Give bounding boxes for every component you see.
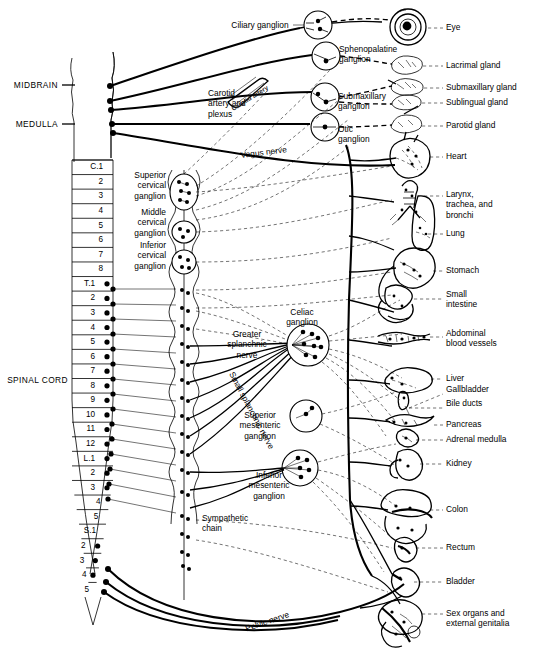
larynx-trachea-bronchi-drawing: [390, 181, 426, 225]
segment-dot: [104, 441, 109, 446]
segment-dot: [104, 354, 109, 359]
submaxillary-ganglion-circle: [311, 83, 339, 111]
label-superior-mesenteric-ganglion: Superior mesenteric ganglion: [227, 410, 293, 441]
sex-organs-drawing: [378, 600, 422, 647]
pancreas-drawing: [386, 415, 434, 427]
segment-dot: [104, 427, 109, 432]
cord-segment-2: 2: [68, 468, 95, 477]
label-medulla: MEDULLA: [0, 119, 58, 129]
organ-label-bile-ducts: Bile ducts: [446, 398, 536, 408]
segment-dot: [104, 369, 109, 374]
organ-label-gallbladder: Gallbladder: [446, 384, 536, 394]
organ-label-liver: Liver: [446, 373, 536, 383]
organ-label-rectum: Rectum: [446, 542, 536, 552]
cord-segment-4: 4: [68, 206, 103, 215]
cord-segment-S1: S.1: [75, 526, 96, 535]
cord-segment-6: 6: [68, 352, 95, 361]
kidney-drawing: [388, 449, 423, 480]
middle-cervical-ganglion-shape: [172, 221, 196, 243]
cord-segment-7: 7: [68, 366, 95, 375]
segment-dot: [104, 310, 109, 315]
celiac-ganglion-circle: [287, 324, 329, 366]
eye-organ-drawing: [390, 9, 426, 45]
cord-segment-3: 3: [80, 556, 84, 565]
white-rami-fibers: [108, 289, 176, 513]
cord-origin-dots: [105, 286, 115, 501]
cord-segment-2: 2: [77, 541, 85, 550]
colon-drawing: [381, 490, 432, 544]
cord-segment-dividers: [72, 160, 113, 625]
cord-tip: [85, 597, 101, 625]
celiac-postganglionic-dashed: [322, 300, 402, 436]
cord-segment-5: 5: [68, 221, 103, 230]
gallbladder-drawing: [398, 392, 409, 415]
superior-mesenteric-postganglionic-dashed: [320, 392, 396, 462]
cord-segment-3: 3: [68, 483, 95, 492]
stomach-drawing: [379, 248, 435, 304]
label-middle-cervical-ganglion: Middle cervical ganglion: [122, 207, 166, 238]
cord-segment-8: 8: [68, 381, 95, 390]
cord-segment-9: 9: [68, 395, 95, 404]
segment-dot: [104, 296, 109, 301]
organ-label-heart: Heart: [446, 151, 536, 161]
label-sphenopalatine-ganglion: Sphenopalatine ganglion: [339, 44, 409, 65]
heart-drawing: [390, 132, 430, 178]
label-inferior-cervical-ganglion: Inferior cervical ganglion: [122, 240, 166, 271]
organ-label-lung: Lung: [446, 228, 536, 238]
organ-label-larynx-trachea-bronchi: Larynx, trachea, and bronchi: [446, 189, 536, 220]
inferior-cervical-ganglion-shape: [172, 250, 196, 274]
liver-drawing: [385, 368, 432, 393]
label-ciliary-ganglion: Ciliary ganglion: [224, 20, 296, 30]
cord-segment-4: 4: [82, 570, 87, 579]
organ-label-stomach: Stomach: [446, 265, 536, 275]
postganglionic-sympathetic-dashed: [196, 166, 392, 308]
segment-dot: [104, 398, 109, 403]
chain-ganglia-beads: [180, 288, 191, 571]
cord-segment-2: 2: [68, 293, 95, 302]
otic-ganglion-circle: [311, 113, 339, 141]
segment-dot: [104, 456, 109, 461]
cord-segment-3: 3: [68, 191, 103, 200]
bladder-drawing: [391, 568, 419, 597]
cord-segment-8: 8: [68, 264, 103, 273]
segment-dot: [104, 485, 109, 490]
segment-dot: [95, 543, 100, 548]
brainstem-outline: [71, 52, 115, 162]
label-sympathetic-chain: Sympathetic chain: [202, 513, 264, 534]
cord-segment-L1: L.1: [68, 454, 95, 463]
cord-segment-T1: T.1: [68, 279, 95, 288]
segment-dot: [104, 383, 109, 388]
cord-segment-2: 2: [68, 177, 103, 186]
vagus-nerve-trunk: [346, 145, 372, 576]
label-midbrain: MIDBRAIN: [0, 80, 58, 90]
organ-label-adrenal-medulla: Adrenal medulla: [446, 434, 536, 444]
cord-segment-12: 12: [68, 439, 95, 448]
cord-segment-4: 4: [68, 323, 95, 332]
label-inferior-mesenteric-ganglion: Inferior mesenteric ganglion: [236, 470, 302, 501]
adrenal-medulla-drawing: [396, 429, 418, 447]
segment-dot: [104, 339, 109, 344]
cord-segment-5: 5: [84, 585, 86, 594]
label-submaxillary-ganglion: Submaxillary ganglion: [338, 91, 406, 112]
organ-label-colon: Colon: [446, 504, 536, 514]
abdominal-blood-vessels-drawing: [378, 332, 430, 344]
ciliary-ganglion-circle: [304, 11, 332, 39]
organ-label-small-intestine: Small intestine: [446, 289, 536, 310]
label-greater-splanchnic-nerve: Greater splanchnic nerve: [216, 329, 278, 360]
cord-segment-4: 4: [70, 497, 100, 506]
sphenopalatine-ganglion-circle: [312, 42, 340, 70]
organ-label-lacrimal-gland: Lacrimal gland: [446, 60, 536, 70]
organ-label-pancreas: Pancreas: [446, 419, 536, 429]
segment-dot: [104, 412, 109, 417]
organ-label-abdominal-blood-vessels: Abdominal blood vessels: [446, 328, 536, 349]
label-spinal-cord: SPINAL CORD: [0, 375, 68, 385]
segment-dot: [104, 471, 109, 476]
organ-label-bladder: Bladder: [446, 576, 536, 586]
organ-label-submaxillary-gland: Submaxillary gland: [446, 82, 536, 92]
diagram-canvas: .s{fill:none;stroke:#000;} .thick{stroke…: [0, 0, 536, 655]
superior-cervical-ganglion-shape: [170, 174, 198, 210]
cord-segment-5: 5: [68, 337, 95, 346]
organ-label-parotid-gland: Parotid gland: [446, 120, 536, 130]
cord-segment-C1: C.1: [68, 162, 103, 171]
cord-segment-3: 3: [68, 308, 95, 317]
